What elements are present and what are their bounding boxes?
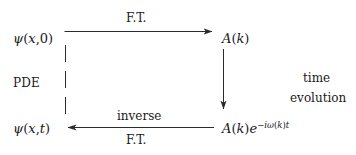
bottom-arrow-label-below: F.T. (126, 134, 146, 146)
node-A-of-k: A(k) (222, 32, 249, 45)
close-paren: ) (48, 31, 53, 46)
exponential-base: e (249, 121, 257, 136)
amplitude-symbol: A (222, 121, 231, 136)
right-edge-label-line1: time (303, 72, 330, 84)
node-A-of-k-phase: A(k)e−iω(k)t (222, 122, 289, 135)
variable-x: x (28, 121, 35, 136)
left-edge-label-pde: PDE (13, 77, 40, 89)
right-edge-label-line2: evolution (290, 92, 346, 104)
psi-symbol: ψ (13, 31, 23, 46)
psi-symbol: ψ (13, 121, 23, 136)
bottom-arrow-label-above: inverse (117, 110, 161, 122)
exponent-group: −iω(k)t (257, 120, 289, 130)
top-arrow-label: F.T. (126, 12, 146, 24)
variable-x: x (28, 31, 35, 46)
amplitude-symbol: A (222, 31, 231, 46)
argument-zero: 0 (40, 31, 48, 46)
close-paren: ) (244, 31, 249, 46)
close-paren: ) (45, 121, 50, 136)
omega-symbol: ω (267, 120, 274, 130)
node-psi-x-0: ψ(x,0) (13, 32, 53, 45)
commutative-diagram: ψ(x,0) A(k) ψ(x,t) A(k)e−iω(k)t F.T. PDE… (0, 0, 356, 155)
node-psi-x-t: ψ(x,t) (13, 122, 50, 135)
exponent-variable-t: t (286, 120, 289, 130)
